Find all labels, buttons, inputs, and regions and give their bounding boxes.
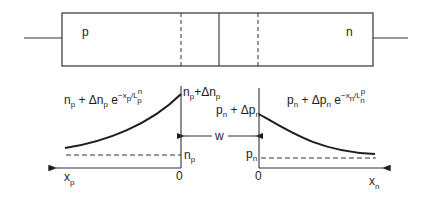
p-region-label: p bbox=[82, 25, 89, 39]
right-baseline-label: pn bbox=[246, 147, 257, 163]
right-excess-curve bbox=[259, 114, 375, 154]
right-origin-label: 0 bbox=[255, 169, 262, 183]
left-axis-label: xp bbox=[64, 170, 75, 187]
left-top-label: np+Δnp bbox=[183, 85, 221, 101]
pn-junction-diagram: p n np + Δnp e−xp/Lnp np+Δnp np 0 xp w bbox=[0, 0, 429, 198]
depletion-width-label: w bbox=[214, 129, 224, 143]
left-baseline-label: np bbox=[184, 148, 196, 164]
depletion-width-indicator: w bbox=[184, 129, 256, 143]
right-plot: pn + Δpn e−xn/Lpn pn + Δpn pn 0 xn bbox=[216, 87, 383, 191]
right-top-label: pn + Δpn bbox=[216, 103, 260, 119]
n-region-label: n bbox=[346, 25, 353, 39]
device-body bbox=[62, 13, 373, 66]
left-origin-label: 0 bbox=[176, 169, 183, 183]
left-curve-label: np + Δnp e−xp/Lnp bbox=[64, 87, 142, 109]
right-axis-label: xn bbox=[369, 174, 379, 191]
right-curve-label: pn + Δpn e−xn/Lpn bbox=[287, 87, 366, 109]
device-bar: p n bbox=[24, 13, 408, 66]
